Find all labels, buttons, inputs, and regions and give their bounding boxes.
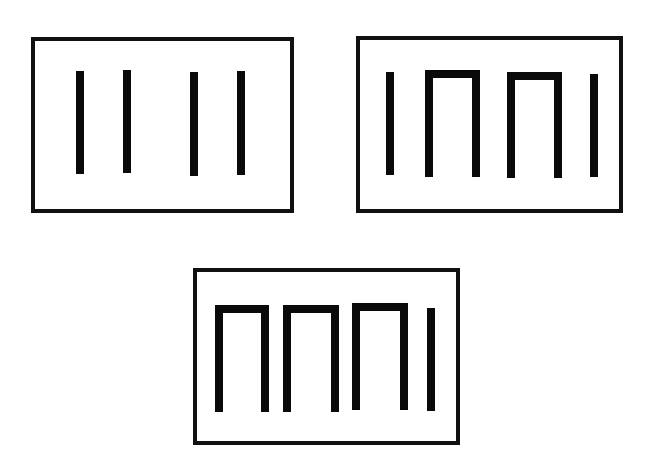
panel-top-right bbox=[358, 38, 621, 211]
figure-canvas bbox=[0, 0, 651, 461]
panel-frame bbox=[358, 38, 621, 211]
panel-frame bbox=[195, 270, 458, 443]
panel-top-left bbox=[33, 39, 292, 211]
panel-bottom-center bbox=[195, 270, 458, 443]
panel-frame bbox=[33, 39, 292, 211]
